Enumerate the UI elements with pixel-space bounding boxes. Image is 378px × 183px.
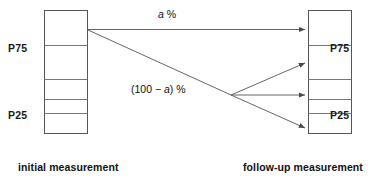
edge-label-100-minus-a-percent: (100 − a) % xyxy=(131,83,186,95)
diagram-svg xyxy=(0,0,378,183)
edge-label-a-percent: a % xyxy=(158,8,176,20)
left-box-label-p25: P25 xyxy=(8,109,27,121)
caption-followup-measurement: follow-up measurement xyxy=(243,161,363,173)
diagram-canvas: P75 P25 P75 P25 a % (100 − a) % initial … xyxy=(0,0,378,183)
edge-label-100a-prefix: (100 − xyxy=(131,83,164,95)
edge-label-a-suffix: % xyxy=(164,8,176,20)
arrow-branch-down xyxy=(231,95,305,128)
right-box-label-p75: P75 xyxy=(330,42,349,54)
initial-measurement-box xyxy=(45,11,88,134)
left-box-label-p75: P75 xyxy=(8,42,27,54)
caption-initial-measurement: initial measurement xyxy=(18,161,119,173)
arrow-branch-up xyxy=(231,63,305,95)
right-box-label-p25: P25 xyxy=(330,109,349,121)
edge-label-100a-suffix: ) % xyxy=(170,83,186,95)
